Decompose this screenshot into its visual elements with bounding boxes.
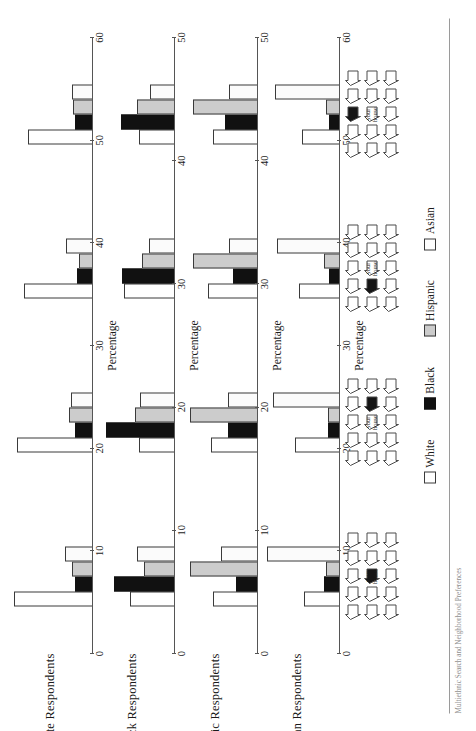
panel-asian-respondents: Asian Respondents0102030405060Percentage [258,37,341,653]
bar-asian[interactable] [277,238,340,253]
legend-item-black[interactable]: Black [424,366,436,409]
bar-white[interactable] [213,591,258,606]
bar-group [93,37,176,191]
bar-hispanic[interactable] [135,407,175,422]
house-icon-shaded [363,278,381,295]
legend-item-hispanic[interactable]: Hispanic [424,280,436,337]
house-icon [363,414,381,431]
bar-asian[interactable] [267,546,340,561]
house-icon [382,586,400,603]
bar-white[interactable] [14,591,92,606]
bar-white[interactable] [28,129,93,144]
legend-label: Asian [424,207,436,234]
bar-asian[interactable] [229,84,257,99]
house-icon [363,242,381,259]
panel-white-respondents: White Respondents0102030405060Percentage [10,37,93,653]
bar-asian[interactable] [228,392,258,407]
category-label-neighborhood-d: yourhouse [344,37,418,191]
bar-black[interactable] [75,576,93,591]
bar-group [175,499,258,653]
bar-white[interactable] [139,129,175,144]
bar-white[interactable] [17,437,93,452]
bar-white[interactable] [139,437,175,452]
bar-asian[interactable] [275,84,340,99]
plot-area: 0102030405060Percentage [258,37,341,653]
bar-black[interactable] [228,422,258,437]
bar-asian[interactable] [221,546,257,561]
house-icon [363,296,381,313]
bar-asian[interactable] [71,392,93,407]
bar-asian[interactable] [273,392,340,407]
bar-hispanic[interactable] [142,253,175,268]
bar-hispanic[interactable] [326,561,340,576]
bar-white[interactable] [124,283,175,298]
bar-black[interactable] [106,422,175,437]
bar-white[interactable] [130,591,175,606]
bar-black[interactable] [75,114,93,129]
bar-hispanic[interactable] [72,561,93,576]
bar-white[interactable] [208,283,258,298]
bar-black[interactable] [236,576,257,591]
bar-hispanic[interactable] [69,407,92,422]
bar-hispanic[interactable] [137,99,175,114]
house-icon [363,550,381,567]
bar-white[interactable] [295,437,340,452]
bar-black[interactable] [324,576,341,591]
bar-hispanic[interactable] [193,253,257,268]
bar-asian[interactable] [150,84,175,99]
bar-black[interactable] [77,268,92,283]
bar-black[interactable] [233,268,258,283]
house-icon [344,450,362,467]
bar-asian[interactable] [140,392,175,407]
bar-white[interactable] [24,283,93,298]
bar-white[interactable] [299,283,340,298]
bar-hispanic[interactable] [144,561,175,576]
bar-asian[interactable] [65,546,93,561]
bar-hispanic[interactable] [190,561,258,576]
category-label-neighborhood-a: yourhouse [344,499,418,653]
bar-asian[interactable] [66,238,92,253]
legend-item-asian[interactable]: Asian [424,207,436,250]
house-icon [382,224,400,241]
house-icon [382,414,400,431]
bar-group [10,499,93,653]
bar-group [175,37,258,191]
bar-asian[interactable] [72,84,93,99]
bar-asian[interactable] [229,238,257,253]
bar-hispanic[interactable] [324,253,341,268]
bar-black[interactable] [114,576,175,591]
footer-divider [449,18,450,713]
bar-groups [93,37,176,653]
bar-black[interactable] [75,422,93,437]
legend-swatch-black [424,397,436,409]
bar-black[interactable] [121,114,175,129]
house-icon [363,106,381,123]
bar-hispanic[interactable] [190,407,258,422]
house-icon [344,296,362,313]
bar-black[interactable] [122,268,175,283]
legend-label: Black [424,366,436,393]
house-icon [344,278,362,295]
house-icon [344,88,362,105]
house-icon [382,378,400,395]
plot-area: 0102030405060Percentage [10,37,93,653]
bar-white[interactable] [304,591,340,606]
bar-hispanic[interactable] [79,253,93,268]
house-icon [382,260,400,277]
bar-asian[interactable] [149,238,175,253]
house-icon [363,604,381,621]
legend-swatch-hispanic [424,324,436,336]
bar-black[interactable] [225,114,258,129]
house-icon [363,70,381,87]
legend-item-white[interactable]: White [424,439,436,483]
bar-white[interactable] [211,437,257,452]
bar-hispanic[interactable] [193,99,257,114]
house-icon [363,224,381,241]
bar-asian[interactable] [137,546,175,561]
bar-hispanic[interactable] [73,99,92,114]
bar-hispanic[interactable] [326,99,340,114]
house-icon [344,142,362,159]
house-icon [363,450,381,467]
bar-white[interactable] [302,129,341,144]
bar-white[interactable] [213,129,258,144]
